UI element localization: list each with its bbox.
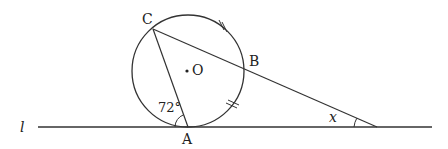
secant-CB: [153, 29, 377, 127]
equal-arc-tick-upper: [219, 20, 227, 32]
angle-label-72: 72°: [158, 100, 181, 115]
line-label-l: l: [20, 119, 24, 135]
label-B: B: [249, 53, 259, 69]
center-point-O: [185, 69, 188, 72]
label-C: C: [142, 11, 153, 27]
label-A: A: [181, 131, 193, 147]
angle-label-x: x: [329, 109, 337, 125]
angle-arc-x: [354, 118, 357, 127]
geometry-diagram: l O C B A 72° x: [0, 0, 448, 149]
label-O: O: [192, 62, 203, 78]
